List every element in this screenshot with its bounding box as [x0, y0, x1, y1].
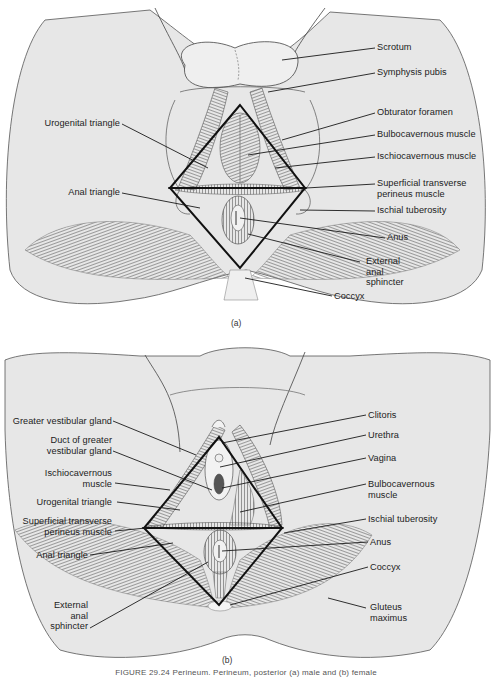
label-ischial-tuberosity-a: Ischial tuberosity	[377, 205, 446, 216]
panel-tag-a: (a)	[231, 318, 241, 328]
panel-tag-b: (b)	[222, 655, 232, 665]
label-coccyx-a: Coccyx	[334, 291, 364, 302]
label-duct-greater-vestibular-gland: Duct of greater vestibular gland	[0, 435, 112, 456]
figure-caption: FIGURE 29.24 Perineum. Perineum, posteri…	[0, 668, 492, 677]
label-urogenital-triangle-b: Urogenital triangle	[0, 497, 112, 508]
label-ischiocavernous-muscle-b: Ischiocavernous muscle	[0, 468, 112, 489]
label-vagina: Vagina	[368, 453, 396, 464]
label-scrotum: Scrotum	[377, 42, 412, 53]
label-symphysis-pubis: Symphysis pubis	[377, 67, 447, 78]
label-bulbocavernous-muscle: Bulbocavernous muscle	[377, 129, 476, 140]
perineum-illustration	[0, 0, 492, 677]
label-ischial-tuberosity-b: Ischial tuberosity	[368, 514, 437, 525]
label-superficial-transverse-perineus-a: Superficial transverse perineus muscle	[377, 178, 466, 199]
label-obturator-foramen: Obturator foramen	[377, 107, 453, 118]
label-urethra: Urethra	[368, 430, 399, 441]
label-bulbocavernous-muscle-b: Bulbocavernous muscle	[368, 479, 435, 500]
label-gluteus-maximus: Gluteus maximus	[370, 602, 407, 623]
label-ischiocavernous-muscle: Ischiocavernous muscle	[377, 151, 476, 162]
label-anal-triangle-b: Anal triangle	[0, 550, 88, 561]
label-superficial-transverse-perineus-b: Superficial transverse perineus muscle	[0, 516, 112, 537]
label-clitoris: Clitoris	[368, 410, 396, 421]
label-coccyx-b: Coccyx	[370, 562, 400, 573]
label-anus-b: Anus	[370, 537, 391, 548]
label-anal-triangle-a: Anal triangle	[20, 187, 120, 198]
label-urogenital-triangle-a: Urogenital triangle	[20, 118, 120, 129]
label-anus-a: Anus	[387, 232, 408, 243]
label-external-anal-sphincter-a: External anal sphincter	[366, 256, 404, 288]
label-greater-vestibular-gland: Greater vestibular gland	[0, 416, 112, 427]
label-external-anal-sphincter-b: External anal sphincter	[0, 600, 88, 632]
